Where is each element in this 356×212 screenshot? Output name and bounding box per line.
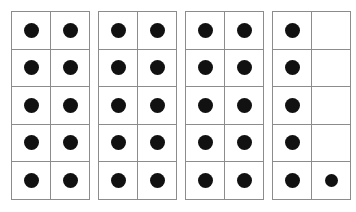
filled-cell bbox=[225, 12, 264, 50]
counter-dot bbox=[198, 135, 213, 150]
counter-dot bbox=[24, 60, 39, 75]
frame-row bbox=[99, 87, 177, 125]
filled-cell bbox=[12, 87, 51, 125]
filled-cell bbox=[51, 12, 90, 50]
counter-dot bbox=[285, 98, 300, 113]
counter-dot bbox=[63, 60, 78, 75]
filled-cell bbox=[99, 87, 138, 125]
counter-dot bbox=[285, 173, 300, 188]
counter-dot bbox=[237, 173, 252, 188]
frame-row bbox=[12, 12, 90, 50]
counter-dot bbox=[285, 23, 300, 38]
filled-cell bbox=[12, 125, 51, 163]
empty-cell bbox=[312, 12, 351, 50]
counter-dot bbox=[150, 23, 165, 38]
frame-row bbox=[273, 125, 351, 163]
empty-cell bbox=[312, 125, 351, 163]
filled-cell bbox=[99, 125, 138, 163]
ten-frame-group bbox=[11, 11, 351, 200]
filled-cell bbox=[51, 125, 90, 163]
frame-row bbox=[186, 162, 264, 200]
counter-dot bbox=[237, 23, 252, 38]
frame-row bbox=[186, 50, 264, 88]
frame-row bbox=[186, 125, 264, 163]
counter-dot bbox=[198, 23, 213, 38]
filled-cell bbox=[225, 87, 264, 125]
filled-cell bbox=[12, 50, 51, 88]
filled-cell bbox=[138, 125, 177, 163]
counter-dot bbox=[150, 60, 165, 75]
filled-cell bbox=[225, 125, 264, 163]
filled-cell bbox=[99, 12, 138, 50]
frame-row bbox=[99, 50, 177, 88]
counter-dot bbox=[111, 60, 126, 75]
frame-row bbox=[186, 12, 264, 50]
frame-row bbox=[12, 87, 90, 125]
counter-dot bbox=[63, 135, 78, 150]
counter-dot bbox=[237, 60, 252, 75]
frame-row bbox=[186, 87, 264, 125]
filled-cell bbox=[51, 162, 90, 200]
counter-dot bbox=[24, 135, 39, 150]
filled-cell bbox=[186, 162, 225, 200]
frame-row bbox=[12, 162, 90, 200]
counter-dot bbox=[150, 135, 165, 150]
ten-frame-2 bbox=[98, 11, 177, 200]
filled-cell bbox=[225, 50, 264, 88]
frame-row bbox=[273, 87, 351, 125]
filled-cell bbox=[186, 87, 225, 125]
counter-dot bbox=[63, 173, 78, 188]
counter-dot bbox=[198, 60, 213, 75]
frame-row bbox=[12, 50, 90, 88]
ten-frame-1 bbox=[11, 11, 90, 200]
filled-cell bbox=[273, 125, 312, 163]
empty-cell bbox=[312, 50, 351, 88]
ten-frame-4 bbox=[272, 11, 351, 200]
filled-cell bbox=[12, 12, 51, 50]
counter-dot bbox=[111, 135, 126, 150]
counter-dot bbox=[63, 98, 78, 113]
filled-cell bbox=[312, 162, 351, 200]
frame-row bbox=[273, 50, 351, 88]
counter-dot bbox=[237, 135, 252, 150]
filled-cell bbox=[138, 162, 177, 200]
counter-dot bbox=[198, 98, 213, 113]
filled-cell bbox=[273, 162, 312, 200]
filled-cell bbox=[138, 12, 177, 50]
filled-cell bbox=[273, 50, 312, 88]
filled-cell bbox=[51, 87, 90, 125]
frame-row bbox=[273, 12, 351, 50]
filled-cell bbox=[186, 125, 225, 163]
counter-dot bbox=[24, 23, 39, 38]
counter-dot bbox=[198, 173, 213, 188]
filled-cell bbox=[186, 12, 225, 50]
counter-dot bbox=[150, 173, 165, 188]
ten-frame-3 bbox=[185, 11, 264, 200]
counter-dot bbox=[111, 173, 126, 188]
frame-row bbox=[12, 125, 90, 163]
ten-frame-figure bbox=[0, 0, 356, 212]
counter-dot bbox=[325, 174, 338, 187]
frame-row bbox=[99, 12, 177, 50]
filled-cell bbox=[99, 50, 138, 88]
filled-cell bbox=[225, 162, 264, 200]
frame-row bbox=[99, 125, 177, 163]
filled-cell bbox=[186, 50, 225, 88]
counter-dot bbox=[111, 98, 126, 113]
filled-cell bbox=[273, 12, 312, 50]
empty-cell bbox=[312, 87, 351, 125]
filled-cell bbox=[12, 162, 51, 200]
counter-dot bbox=[285, 60, 300, 75]
frame-row bbox=[273, 162, 351, 200]
counter-dot bbox=[237, 98, 252, 113]
counter-dot bbox=[285, 135, 300, 150]
frame-row bbox=[99, 162, 177, 200]
filled-cell bbox=[138, 50, 177, 88]
filled-cell bbox=[273, 87, 312, 125]
counter-dot bbox=[111, 23, 126, 38]
counter-dot bbox=[150, 98, 165, 113]
counter-dot bbox=[63, 23, 78, 38]
filled-cell bbox=[99, 162, 138, 200]
filled-cell bbox=[138, 87, 177, 125]
filled-cell bbox=[51, 50, 90, 88]
